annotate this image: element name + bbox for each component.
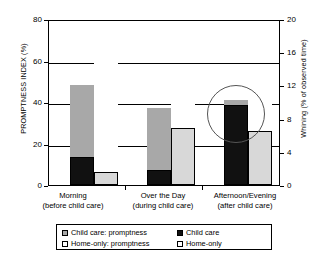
chart-figure: PROMPTNESS INDEX (%) Whining (% of obser… [0,0,323,256]
y-axis-right-tickmark [280,186,284,187]
x-axis-category-label-afternoonevening: Afternoon/Evening (after child care) [197,191,293,210]
bar-segment-whining [94,172,118,186]
y-axis-right-tick-4: 4 [287,149,305,157]
y-axis-right-tickmark [280,20,284,21]
bar-overtheday-homeonly [171,67,195,185]
bar-segment-whining [70,157,94,185]
legend-entry-homeonly-promptness: Home-only: promptness [62,239,149,249]
x-axis-separator-tick [125,186,126,190]
y-axis-right-tick-12: 12 [287,82,305,90]
category-label-line2: (before child care) [27,201,119,211]
bar-segment-promptness [248,67,272,131]
y-axis-right-tickmark [280,120,284,121]
bar-afternoonevening-homeonly [248,67,272,185]
bar-segment-promptness [94,46,118,172]
bar-segment-whining [248,131,272,185]
bar-segment-whining [147,170,171,185]
legend-entry-childcare-promptness: Child care: promptness [62,228,147,238]
y-axis-left-tick-40: 40 [24,99,42,107]
y-axis-right-tick-20: 20 [287,16,305,24]
bar-segment-whining [224,105,248,185]
bar-segment-promptness [70,85,94,156]
legend-label: Home-only [186,239,222,249]
y-axis-right-tick-8: 8 [287,116,305,124]
plot-area [48,20,280,186]
bar-segment-promptness [147,108,171,169]
category-label-line2: (after child care) [197,201,293,211]
gridline-60 [49,63,279,64]
legend-swatch-gray-icon [62,230,68,236]
y-axis-right-tickmark [280,53,284,54]
y-axis-left-tick-80: 80 [24,16,42,24]
legend-label: Home-only: promptness [71,239,149,249]
bar-segment-promptness [171,67,195,129]
legend-label: Child care [186,228,219,238]
x-axis-category-label-overtheday: Over the Day (during child care) [117,191,209,210]
legend-entry-childcare: Child care [177,228,219,238]
y-axis-right-tickmark [280,153,284,154]
y-axis-right-tickmark [280,86,284,87]
category-label-line1: Morning [59,191,86,200]
bar-segment-whining [171,128,195,185]
category-label-line2: (during child care) [117,201,209,211]
category-label-line1: Afternoon/Evening [214,191,276,200]
bar-morning-childcare [70,85,94,185]
bar-morning-homeonly [94,46,118,185]
chart-legend: Child care: promptness Home-only: prompt… [56,224,272,250]
legend-swatch-white-icon [177,241,183,247]
y-axis-left-tick-0: 0 [24,182,42,190]
legend-swatch-black-icon [177,230,183,236]
y-axis-left-tick-60: 60 [24,58,42,66]
legend-label: Child care: promptness [71,228,147,238]
bar-overtheday-childcare [147,108,171,185]
y-axis-left-tickmark [44,186,48,187]
y-axis-right-tick-0: 0 [287,182,305,190]
legend-entry-homeonly: Home-only [177,239,222,249]
y-axis-right-tick-16: 16 [287,49,305,57]
y-axis-left-tick-20: 20 [24,141,42,149]
legend-swatch-white-icon [62,241,68,247]
x-axis-category-label-morning: Morning (before child care) [27,191,119,210]
category-label-line1: Over the Day [141,191,186,200]
x-axis-separator-tick [202,186,203,190]
bar-afternoonevening-childcare [224,100,248,185]
